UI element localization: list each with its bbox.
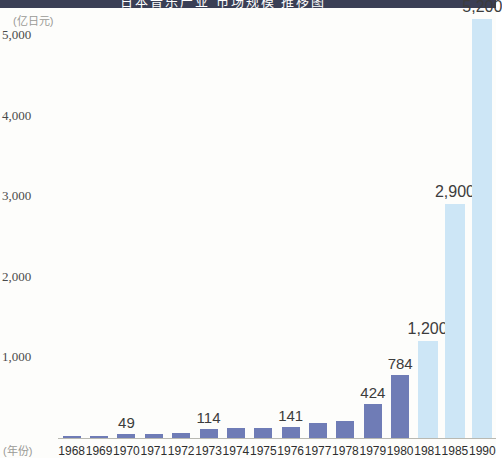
y-axis-tick-2000: 2,000 xyxy=(2,269,50,285)
x-axis-tick-1980: 1980 xyxy=(387,441,414,458)
x-axis-tick-1981: 1981 xyxy=(414,441,441,458)
bar-series: 491141414247841,2002,9005,200 xyxy=(58,8,496,439)
bar-1990[interactable] xyxy=(472,19,492,438)
y-axis-tick-4000: 4,000 xyxy=(2,108,50,124)
bar-slot-1975[interactable] xyxy=(250,8,277,439)
y-axis-tick-1000: 1,000 xyxy=(2,349,50,365)
bar-1975[interactable] xyxy=(254,428,272,438)
x-axis-tick-1974: 1974 xyxy=(222,441,249,458)
bar-1974[interactable] xyxy=(227,428,245,438)
bar-slot-1972[interactable] xyxy=(168,8,195,439)
bar-1985[interactable] xyxy=(445,204,465,438)
x-axis-tick-1973: 1973 xyxy=(195,441,222,458)
x-axis-tick-1968: 1968 xyxy=(58,441,85,458)
bar-slot-1978[interactable] xyxy=(332,8,359,439)
bar-1976[interactable] xyxy=(282,427,300,438)
bar-value-label-1990: 5,200 xyxy=(462,0,502,16)
bar-1979[interactable] xyxy=(364,404,382,438)
bar-1972[interactable] xyxy=(172,433,190,438)
bar-1970[interactable] xyxy=(117,434,135,438)
bar-1977[interactable] xyxy=(309,423,327,438)
bar-slot-1968[interactable] xyxy=(58,8,85,439)
bar-value-label-1970: 49 xyxy=(118,414,135,431)
bar-slot-1974[interactable] xyxy=(222,8,249,439)
x-axis-tick-container: 1968196919701971197219731974197519761977… xyxy=(58,441,496,458)
x-axis-tick-1976: 1976 xyxy=(277,441,304,458)
x-axis-tick-1969: 1969 xyxy=(85,441,112,458)
bar-slot-1980[interactable]: 784 xyxy=(387,8,414,439)
bar-slot-1990[interactable]: 5,200 xyxy=(469,8,496,439)
bar-1980[interactable] xyxy=(391,375,409,438)
bar-1968[interactable] xyxy=(63,436,81,438)
title-strip-text: 日本音乐产业 市场规模 推移图 xyxy=(120,0,326,8)
bar-1981[interactable] xyxy=(418,341,438,438)
x-axis-tick-1978: 1978 xyxy=(332,441,359,458)
x-axis-tick-1990: 1990 xyxy=(469,441,496,458)
bar-1973[interactable] xyxy=(200,429,218,438)
x-axis-tick-1985: 1985 xyxy=(441,441,468,458)
y-axis-unit-label: (亿日元) xyxy=(13,12,53,28)
bar-slot-1985[interactable]: 2,900 xyxy=(441,8,468,439)
bar-slot-1981[interactable]: 1,200 xyxy=(414,8,441,439)
x-axis-tick-1972: 1972 xyxy=(168,441,195,458)
y-axis-tick-5000: 5,000 xyxy=(2,27,50,43)
bar-slot-1976[interactable]: 141 xyxy=(277,8,304,439)
bar-slot-1971[interactable] xyxy=(140,8,167,439)
x-axis-tick-1975: 1975 xyxy=(250,441,277,458)
bar-value-label-1980: 784 xyxy=(388,355,413,372)
x-axis-tick-1970: 1970 xyxy=(113,441,140,458)
bar-slot-1969[interactable] xyxy=(85,8,112,439)
bar-slot-1973[interactable]: 114 xyxy=(195,8,222,439)
bar-slot-1979[interactable]: 424 xyxy=(359,8,386,439)
bar-1969[interactable] xyxy=(90,436,108,438)
bar-value-label-1973: 114 xyxy=(197,409,221,426)
y-axis-tick-3000: 3,000 xyxy=(2,188,50,204)
x-axis-tick-1977: 1977 xyxy=(304,441,331,458)
bar-slot-1977[interactable] xyxy=(304,8,331,439)
bar-1971[interactable] xyxy=(145,434,163,438)
bar-value-label-1979: 424 xyxy=(360,384,385,401)
bar-slot-1970[interactable]: 49 xyxy=(113,8,140,439)
bar-chart: (亿日元) 5,0004,0003,0002,0001,000 49114141… xyxy=(0,8,496,458)
bar-value-label-1976: 141 xyxy=(278,407,303,424)
title-strip: 日本音乐产业 市场规模 推移图 xyxy=(0,0,496,8)
x-axis-unit-label: (年份) xyxy=(3,441,32,458)
x-axis-tick-1971: 1971 xyxy=(140,441,167,458)
x-axis-tick-1979: 1979 xyxy=(359,441,386,458)
bar-1978[interactable] xyxy=(336,421,354,438)
